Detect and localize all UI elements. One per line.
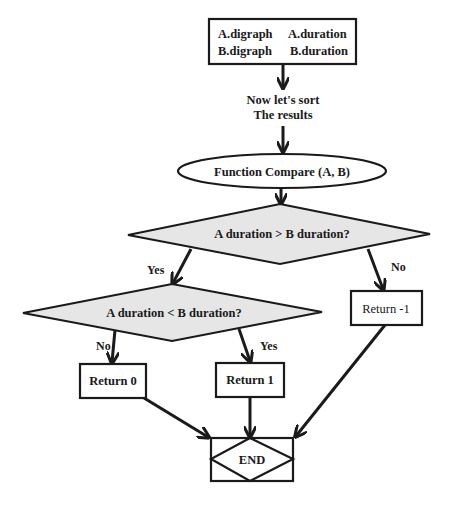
arrow-returnneg1-to-end xyxy=(296,325,385,436)
return-neg1-node: Return -1 xyxy=(351,291,422,325)
decision1-node: A duration > B duration? xyxy=(128,204,430,264)
return-1-label: Return 1 xyxy=(226,373,274,387)
decision1-no-label: No xyxy=(391,260,406,274)
flowchart-canvas: A.digraph A.duration B.digraph B.duratio… xyxy=(0,0,452,507)
return-1-node: Return 1 xyxy=(216,363,284,397)
arrow-decision2-no xyxy=(112,330,115,362)
end-node: END xyxy=(211,438,293,481)
inputs-box: A.digraph A.duration B.digraph B.duratio… xyxy=(209,19,356,64)
arrow-decision1-no xyxy=(368,249,383,289)
decision2-yes-label: Yes xyxy=(260,339,278,353)
sort-note: Now let's sort The results xyxy=(247,93,321,122)
input-a-duration: A.duration xyxy=(288,27,347,41)
arrow-return0-to-end xyxy=(144,398,208,437)
return-0-node: Return 0 xyxy=(80,364,146,398)
sort-note-line1: Now let's sort xyxy=(247,93,321,107)
decision2-label: A duration < B duration? xyxy=(106,306,242,320)
input-a-digraph: A.digraph xyxy=(218,27,273,41)
input-b-digraph: B.digraph xyxy=(218,44,272,58)
sort-note-line2: The results xyxy=(253,108,312,122)
return-0-label: Return 0 xyxy=(89,374,137,388)
decision1-yes-label: Yes xyxy=(147,263,165,277)
return-neg1-label: Return -1 xyxy=(362,302,410,316)
end-label: END xyxy=(239,453,265,467)
arrow-decision2-yes xyxy=(239,329,250,361)
function-node: Function Compare (A, B) xyxy=(178,154,386,188)
decision2-no-label: No xyxy=(96,339,111,353)
input-b-duration: B.duration xyxy=(290,44,348,58)
decision2-node: A duration < B duration? xyxy=(23,284,322,341)
arrow-decision1-yes xyxy=(173,249,191,283)
function-label: Function Compare (A, B) xyxy=(214,165,350,179)
decision1-label: A duration > B duration? xyxy=(214,227,350,241)
